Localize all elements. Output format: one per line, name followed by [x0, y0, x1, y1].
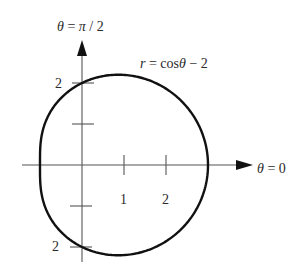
y-tick-label-top: 2 [55, 76, 62, 91]
polar-axis-arrowhead-icon [236, 160, 253, 170]
vertical-axis-label: θ = π / 2 [57, 19, 104, 34]
x-tick-label-2: 2 [162, 192, 169, 207]
x-tick-label-1: 1 [120, 192, 127, 207]
equation-label: r = cosθ − 2 [140, 56, 208, 71]
polar-plot-figure: θ = π / 2 θ = 0 r = cosθ − 2 2 2 1 2 [0, 0, 308, 280]
polar-axis-label: θ = 0 [257, 161, 286, 176]
y-tick-label-bottom: 2 [52, 239, 59, 254]
vertical-axis-arrowhead-icon [77, 40, 87, 56]
